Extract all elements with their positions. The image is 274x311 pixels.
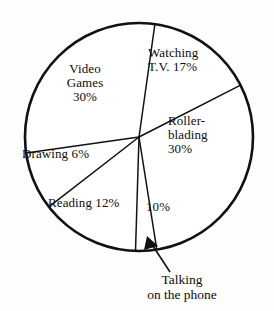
slice-label-video-games-line3: 30% <box>46 90 124 104</box>
callout-label-line2: on the phone <box>122 287 242 302</box>
slice-label-talking-percent: 10% <box>146 200 186 214</box>
slice-label-video-games-line1: Video <box>46 62 124 76</box>
slice-label-watching-tv-line2: T.V. 17% <box>148 60 228 74</box>
callout-label-talking-on-the-phone: Talking on the phone <box>122 272 242 302</box>
slice-label-video-games: Video Games 30% <box>46 62 124 104</box>
slice-label-reading: Reading 12% <box>48 196 144 210</box>
callout-label-line1: Talking <box>122 272 242 287</box>
slice-label-watching-tv-line1: Watching <box>148 46 228 60</box>
slice-label-rollerblading: Roller- blading 30% <box>168 114 240 156</box>
slice-label-drawing: Drawing 6% <box>22 147 114 161</box>
slice-label-rollerblading-line1: Roller- <box>168 114 240 128</box>
pie-chart-figure: Video Games 30% Watching T.V. 17% Roller… <box>0 0 274 311</box>
slice-label-rollerblading-line2: blading <box>168 128 240 142</box>
slice-label-rollerblading-line3: 30% <box>168 142 240 156</box>
slice-label-video-games-line2: Games <box>46 76 124 90</box>
slice-label-watching-tv: Watching T.V. 17% <box>148 46 228 74</box>
